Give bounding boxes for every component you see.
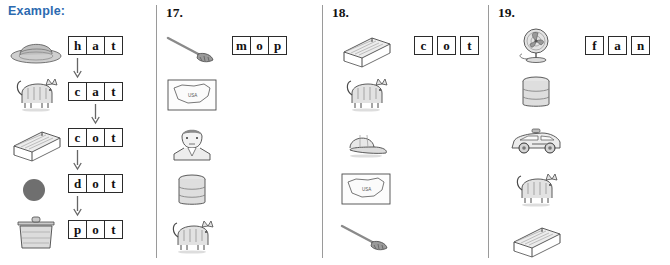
letter-box[interactable]: o — [86, 220, 105, 239]
word-row[interactable]: h a t — [68, 36, 122, 55]
letter-box[interactable]: a — [86, 36, 105, 55]
letter-box[interactable]: a — [608, 36, 627, 55]
letter-box[interactable]: o — [86, 128, 105, 147]
arrow-down-icon — [72, 57, 83, 79]
letter-box[interactable]: t — [460, 36, 479, 55]
letter-box[interactable]: t — [104, 174, 123, 193]
picture-mop — [164, 28, 220, 68]
question-number: 18. — [332, 5, 349, 21]
letter-box[interactable]: o — [86, 174, 105, 193]
picture-cot — [338, 28, 394, 68]
letter-box[interactable]: f — [585, 36, 604, 55]
picture-cat — [164, 215, 220, 255]
word-row[interactable]: c o t — [68, 128, 122, 147]
picture-dot — [8, 170, 64, 210]
map-caption: USA — [362, 187, 371, 192]
letter-box[interactable]: p — [68, 220, 87, 239]
letter-box[interactable]: n — [631, 36, 650, 55]
picture-cot — [508, 218, 564, 258]
column-18: 18. — [318, 0, 484, 265]
example-label: Example: — [8, 4, 65, 18]
worksheet-page: Example: — [0, 0, 670, 265]
word-row[interactable]: d o t — [68, 174, 122, 193]
picture-pot — [8, 212, 64, 252]
word-row[interactable]: c a t — [68, 82, 122, 101]
map-caption: USA — [188, 93, 197, 98]
letter-box[interactable]: c — [414, 36, 433, 55]
arrow-down-icon — [72, 149, 83, 171]
word-row[interactable]: m o p — [232, 36, 286, 55]
picture-cat — [508, 168, 564, 208]
word-row[interactable]: f a n — [585, 36, 650, 55]
word-row[interactable]: c o t — [414, 36, 479, 55]
letter-box[interactable]: h — [68, 36, 87, 55]
letter-box[interactable]: t — [104, 220, 123, 239]
letter-box[interactable]: c — [68, 82, 87, 101]
picture-can — [508, 72, 564, 112]
arrow-down-icon — [72, 195, 83, 217]
letter-box[interactable]: d — [68, 174, 87, 193]
picture-can — [164, 170, 220, 210]
letter-box[interactable]: t — [104, 128, 123, 147]
picture-cat — [8, 73, 64, 113]
letter-box[interactable]: o — [437, 36, 456, 55]
question-number: 17. — [166, 5, 183, 21]
letter-box[interactable]: m — [232, 36, 251, 55]
picture-mop — [338, 216, 394, 256]
picture-cot — [8, 122, 64, 162]
question-number: 19. — [498, 5, 515, 21]
letter-box[interactable]: t — [104, 36, 123, 55]
letter-box[interactable]: t — [104, 82, 123, 101]
picture-hat — [8, 28, 64, 68]
column-example: Example: — [0, 0, 152, 265]
picture-man — [164, 122, 220, 162]
word-row[interactable]: p o t — [68, 220, 122, 239]
picture-car — [508, 120, 564, 160]
picture-fan — [508, 26, 564, 66]
letter-box[interactable]: o — [250, 36, 269, 55]
column-17: 17. USA — [152, 0, 318, 265]
letter-box[interactable]: a — [86, 82, 105, 101]
picture-cat — [338, 73, 394, 113]
picture-map: USA — [338, 168, 394, 208]
picture-cap — [338, 122, 394, 162]
letter-box[interactable]: c — [68, 128, 87, 147]
picture-map: USA — [164, 74, 220, 114]
arrow-down-icon — [90, 103, 101, 125]
letter-box[interactable]: p — [268, 36, 287, 55]
column-19: 19. — [484, 0, 670, 265]
